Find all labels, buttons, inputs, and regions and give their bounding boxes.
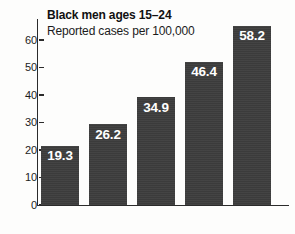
bar-series: 19.3 2005 26.2 2006 34.9 2007 46.4 2008 … [37,0,289,205]
y-axis-tick-label: 10 [25,172,37,183]
y-axis-tick-label: 60 [25,34,37,45]
bar-value-label: 19.3 [41,149,79,163]
bar-value-label: 58.2 [233,29,271,43]
y-axis-tick-label: 30 [25,117,37,128]
bar-value-label: 34.9 [137,101,175,115]
y-axis-tick-label: 50 [25,62,37,73]
bar-chart-figure: Black men ages 15–24 Reported cases per … [0,0,295,234]
bar-rect [233,26,271,205]
bar-value-label: 26.2 [89,128,127,142]
bar-rect [185,62,223,205]
y-axis-tick-label: 40 [25,89,37,100]
y-axis-tick-label: 20 [25,144,37,155]
bar-value-label: 46.4 [185,65,223,79]
